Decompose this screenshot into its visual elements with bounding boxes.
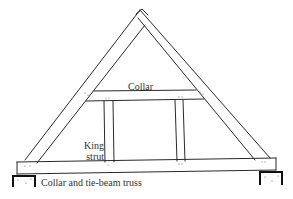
king-strut-label-line1: King (80, 140, 104, 151)
collar-label: Collar (128, 82, 153, 92)
left-support (13, 176, 35, 187)
king-strut-label-line2: strut (80, 151, 104, 162)
king-strut-right (175, 100, 185, 161)
tie-beam (17, 158, 276, 174)
truss-diagram (0, 0, 293, 199)
right-rafter (138, 10, 270, 160)
diagram-caption: Collar and tie-beam truss (41, 178, 142, 188)
right-support (260, 172, 282, 185)
king-strut-label: King strut (80, 140, 104, 162)
king-strut-left (104, 101, 114, 162)
